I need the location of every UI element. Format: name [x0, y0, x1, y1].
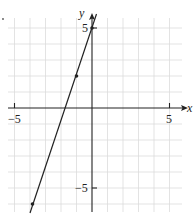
- y-axis-label: y: [78, 6, 85, 20]
- x-axis-label: x: [186, 101, 193, 115]
- x-tick-label-5: 5: [166, 112, 172, 126]
- y-tick-label-5: 5: [82, 21, 88, 35]
- y-tick-label-neg5: −5: [75, 181, 88, 195]
- point-bottom: [31, 202, 35, 206]
- coordinate-plane: x y −5 5 5 −5: [0, 0, 196, 218]
- x-tick-label-neg5: −5: [8, 112, 21, 126]
- point-0-5: [90, 26, 94, 30]
- grid: [8, 18, 182, 212]
- axes: [8, 18, 184, 212]
- point-neg1-2: [75, 74, 79, 78]
- stray-dot: [2, 18, 4, 20]
